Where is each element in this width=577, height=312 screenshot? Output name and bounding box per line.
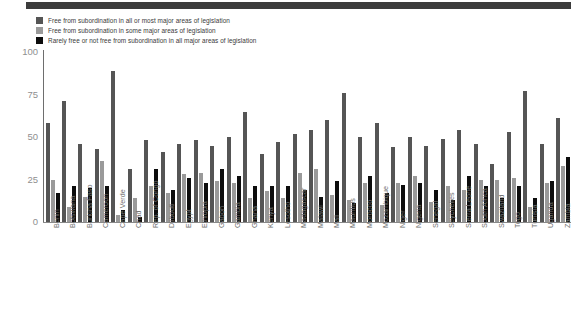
legend-label-series-3: Rarely free or not free from subordinati… bbox=[48, 36, 256, 45]
bar-group bbox=[325, 52, 339, 222]
bar-series-1 bbox=[474, 144, 478, 222]
bar-series-1 bbox=[325, 120, 329, 222]
bar-series-1 bbox=[342, 93, 346, 222]
bar-series-1 bbox=[540, 144, 544, 222]
bar-series-1 bbox=[309, 130, 313, 222]
legend-label-series-1: Free from subordination in all or most m… bbox=[48, 16, 230, 25]
bar-group bbox=[507, 52, 521, 222]
legend-item-series-2: Free from subordination in some major ar… bbox=[36, 26, 356, 35]
bar-series-1 bbox=[243, 112, 247, 223]
bar-series-1 bbox=[144, 140, 148, 222]
bar-series-1 bbox=[293, 134, 297, 222]
x-tick-label: Burkina Faso bbox=[86, 184, 93, 228]
bar-group bbox=[210, 52, 224, 222]
bar-series-1 bbox=[128, 169, 132, 222]
bar-series-1 bbox=[358, 137, 362, 222]
bar-group bbox=[556, 52, 570, 222]
y-axis-tick-labels: 0255075100 bbox=[8, 0, 38, 312]
bar-group bbox=[260, 52, 274, 222]
x-tick-label: Ethiopia bbox=[201, 201, 208, 228]
y-tick-label: 50 bbox=[12, 132, 38, 142]
x-tick-label: Nigeria bbox=[415, 205, 422, 228]
bar-series-1 bbox=[523, 91, 527, 222]
x-tick-label: Zambia bbox=[564, 203, 571, 228]
x-tick-label: Togo bbox=[514, 212, 521, 228]
bar-series-1 bbox=[111, 71, 115, 222]
x-tick-label: Seychelles bbox=[448, 192, 455, 228]
bar-group bbox=[194, 52, 208, 222]
x-tick-label: Cameroon bbox=[102, 194, 109, 228]
x-tick-label: Gambia bbox=[234, 202, 241, 228]
bar-series-1 bbox=[507, 132, 511, 222]
x-tick-label: Senegal bbox=[432, 201, 439, 228]
bar-group bbox=[309, 52, 323, 222]
bar-series-1 bbox=[457, 130, 461, 222]
x-tick-label: Mauritius bbox=[349, 198, 356, 228]
x-tick-label: Tunisia bbox=[531, 204, 538, 228]
bar-series-1 bbox=[375, 123, 379, 222]
bar-group bbox=[342, 52, 356, 222]
bar-group bbox=[128, 52, 142, 222]
x-tick-label: Ghana bbox=[251, 206, 258, 228]
x-tick-label: Chad bbox=[135, 210, 142, 228]
bar-series-1 bbox=[95, 149, 99, 222]
bar-group bbox=[177, 52, 191, 222]
chart-legend: Free from subordination in all or most m… bbox=[36, 16, 356, 45]
bar-series-1 bbox=[62, 101, 66, 222]
y-tick-label: 0 bbox=[12, 217, 38, 227]
x-tick-label: Mali bbox=[333, 214, 340, 228]
bar-group bbox=[540, 52, 554, 222]
bar-series-1 bbox=[556, 118, 560, 222]
bar-group bbox=[523, 52, 537, 222]
chart-page: Free from subordination in all or most m… bbox=[0, 0, 577, 312]
bar-group bbox=[161, 52, 175, 222]
y-tick-label: 25 bbox=[12, 175, 38, 185]
bar-group bbox=[243, 52, 257, 222]
x-tick-label: Malawi bbox=[317, 205, 324, 228]
x-tick-label: Swaziland bbox=[498, 194, 505, 228]
bar-series-1 bbox=[424, 146, 428, 223]
x-tick-label: Djibouti bbox=[168, 203, 175, 228]
bar-series-1 bbox=[210, 146, 214, 223]
legend-item-series-1: Free from subordination in all or most m… bbox=[36, 16, 356, 25]
x-tick-label: Benin bbox=[53, 209, 60, 228]
bar-series-1 bbox=[161, 152, 165, 222]
x-tick-label: Mozambique bbox=[382, 186, 389, 228]
legend-label-series-2: Free from subordination in some major ar… bbox=[48, 26, 216, 35]
bar-series-1 bbox=[276, 142, 280, 222]
x-tick-label: Botswana bbox=[69, 196, 76, 228]
y-tick-label: 75 bbox=[12, 90, 38, 100]
bar-series-1 bbox=[227, 137, 231, 222]
x-tick-label: Morocco bbox=[366, 200, 373, 228]
x-tick-label: Gabon bbox=[218, 206, 225, 228]
bar-group bbox=[358, 52, 372, 222]
bar-series-1 bbox=[194, 140, 198, 222]
x-tick-label: Lesotho bbox=[284, 202, 291, 228]
bar-group bbox=[227, 52, 241, 222]
bar-group bbox=[424, 52, 438, 222]
bar-series-1 bbox=[441, 139, 445, 222]
bar-series-1 bbox=[408, 137, 412, 222]
bar-group bbox=[276, 52, 290, 222]
x-tick-label: Cape Verde bbox=[119, 189, 126, 228]
header-bar bbox=[26, 2, 571, 9]
x-tick-label: Uganda bbox=[547, 202, 554, 228]
bar-group bbox=[391, 52, 405, 222]
x-tick-label: Kenya bbox=[267, 207, 274, 228]
bar-series-1 bbox=[46, 123, 50, 222]
bar-series-1 bbox=[490, 164, 494, 222]
legend-item-series-3: Rarely free or not free from subordinati… bbox=[36, 36, 356, 45]
x-tick-label: Egypt bbox=[185, 209, 192, 228]
bar-series-1 bbox=[78, 144, 82, 222]
x-tick-label: Sierra Leone bbox=[465, 186, 472, 228]
x-tick-label: South Africa bbox=[481, 188, 488, 228]
bar-group bbox=[46, 52, 60, 222]
bar-series-1 bbox=[260, 154, 264, 222]
x-tick-label: Madagascar bbox=[300, 187, 307, 228]
y-tick-label: 100 bbox=[12, 47, 38, 57]
bar-group bbox=[408, 52, 422, 222]
x-tick-label: Rep. of Congo bbox=[152, 180, 159, 228]
bar-series-1 bbox=[177, 144, 181, 222]
bar-series-1 bbox=[391, 147, 395, 222]
x-tick-label: Niger bbox=[399, 210, 406, 228]
